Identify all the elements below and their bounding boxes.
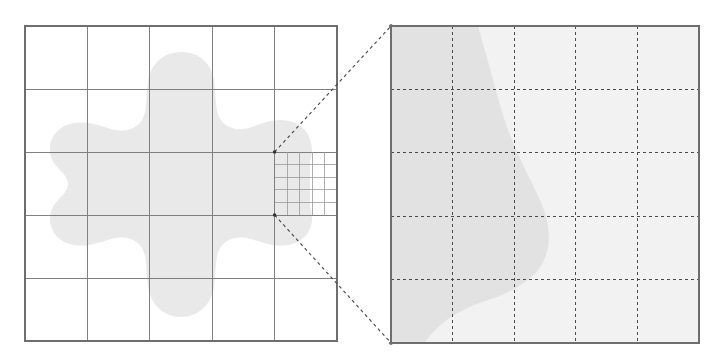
figure-root [0, 0, 719, 361]
figure-canvas [0, 0, 719, 361]
coarse-grid-panel [25, 26, 337, 341]
connector-anchor-top-left [273, 150, 277, 154]
connector-anchor-bottom-left [273, 213, 277, 217]
magnified-detail-panel [391, 26, 699, 343]
